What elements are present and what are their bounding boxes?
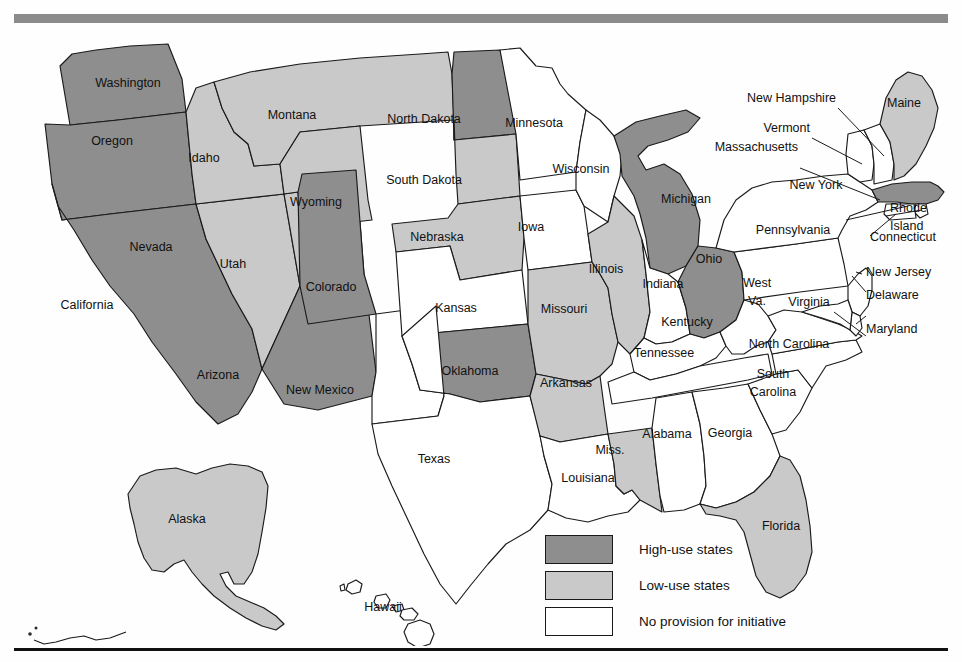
label-NM: New Mexico xyxy=(286,383,354,397)
legend-label-no-provision: No provision for initiative xyxy=(639,614,786,629)
label-SC-line2: Carolina xyxy=(750,385,797,399)
label-ME: Maine xyxy=(887,96,921,110)
label-OR: Oregon xyxy=(91,134,133,148)
label-NJ: New Jersey xyxy=(866,265,932,279)
label-TN: Tennessee xyxy=(634,346,695,360)
map-legend: High-use states Low-use states No provis… xyxy=(545,534,786,642)
label-RI-line1: Rhode xyxy=(890,201,927,215)
label-DE: Delaware xyxy=(866,288,919,302)
label-HI: Hawaii xyxy=(364,600,402,614)
bottom-divider-rule xyxy=(14,648,948,651)
label-FL: Florida xyxy=(762,519,800,533)
label-IN: Indiana xyxy=(642,277,683,291)
label-MT: Montana xyxy=(268,108,317,122)
label-NE: Nebraska xyxy=(410,230,464,244)
label-AK: Alaska xyxy=(168,512,206,526)
label-AR: Arkansas xyxy=(540,376,592,390)
label-NC: North Carolina xyxy=(749,337,830,351)
alaska-aleutians xyxy=(34,632,126,644)
label-VA: Virginia xyxy=(788,295,830,309)
map-figure: Washington Oregon California Nevada Idah… xyxy=(0,0,962,662)
label-SC-line1: South xyxy=(757,367,790,381)
label-WI: Wisconsin xyxy=(553,162,610,176)
us-states-map: Washington Oregon California Nevada Idah… xyxy=(0,24,962,646)
label-OH: Ohio xyxy=(696,252,722,266)
state-HI-kauai[interactable] xyxy=(346,580,362,594)
label-MS: Miss. xyxy=(595,443,624,457)
label-MA: Massachusetts xyxy=(715,140,798,154)
label-MI: Michigan xyxy=(661,192,711,206)
top-divider-rule xyxy=(14,14,948,23)
label-NV: Nevada xyxy=(129,240,172,254)
legend-row-none: No provision for initiative xyxy=(545,606,786,636)
label-ND: North Dakota xyxy=(387,112,461,126)
label-MO: Missouri xyxy=(541,302,588,316)
legend-row-low: Low-use states xyxy=(545,570,786,600)
legend-swatch-no-provision xyxy=(545,607,613,636)
state-AK[interactable] xyxy=(128,464,284,630)
label-SD: South Dakota xyxy=(386,173,462,187)
label-TX: Texas xyxy=(418,452,451,466)
state-HI-bigisland[interactable] xyxy=(404,620,434,646)
label-IA: Iowa xyxy=(518,220,544,234)
legend-swatch-high-use xyxy=(545,535,613,564)
label-KY: Kentucky xyxy=(661,315,713,329)
label-KS: Kansas xyxy=(435,301,477,315)
label-PA: Pennsylvania xyxy=(756,223,830,237)
label-AL: Alabama xyxy=(642,427,691,441)
label-MN: Minnesota xyxy=(505,116,563,130)
label-IL: Illinois xyxy=(589,262,624,276)
label-LA: Louisiana xyxy=(561,471,615,485)
label-AZ: Arizona xyxy=(197,368,239,382)
aleutian-dot-2 xyxy=(35,627,38,630)
label-WV-line1: West xyxy=(743,276,772,290)
label-NY: New York xyxy=(790,178,844,192)
legend-swatch-low-use xyxy=(545,571,613,600)
label-OK: Oklahoma xyxy=(442,364,499,378)
aleutian-dot-1 xyxy=(28,632,32,636)
state-HI-tiny[interactable] xyxy=(340,584,345,591)
label-UT: Utah xyxy=(220,257,246,271)
label-CO: Colorado xyxy=(306,280,357,294)
state-OR[interactable] xyxy=(45,112,196,220)
legend-label-high-use: High-use states xyxy=(639,542,733,557)
label-VT: Vermont xyxy=(763,121,810,135)
state-HI-maui[interactable] xyxy=(400,608,418,620)
legend-label-low-use: Low-use states xyxy=(639,578,730,593)
label-WA: Washington xyxy=(95,76,161,90)
label-NH: New Hampshire xyxy=(747,91,836,105)
label-CA: California xyxy=(61,298,114,312)
label-ID: Idaho xyxy=(188,151,219,165)
label-CT: Connecticut xyxy=(870,230,937,244)
label-WV-line2: Va. xyxy=(748,294,766,308)
label-MD: Maryland xyxy=(866,322,917,336)
label-WY: Wyoming xyxy=(290,195,342,209)
label-GA: Georgia xyxy=(708,426,753,440)
map-canvas: Washington Oregon California Nevada Idah… xyxy=(0,24,962,646)
legend-row-high: High-use states xyxy=(545,534,786,564)
